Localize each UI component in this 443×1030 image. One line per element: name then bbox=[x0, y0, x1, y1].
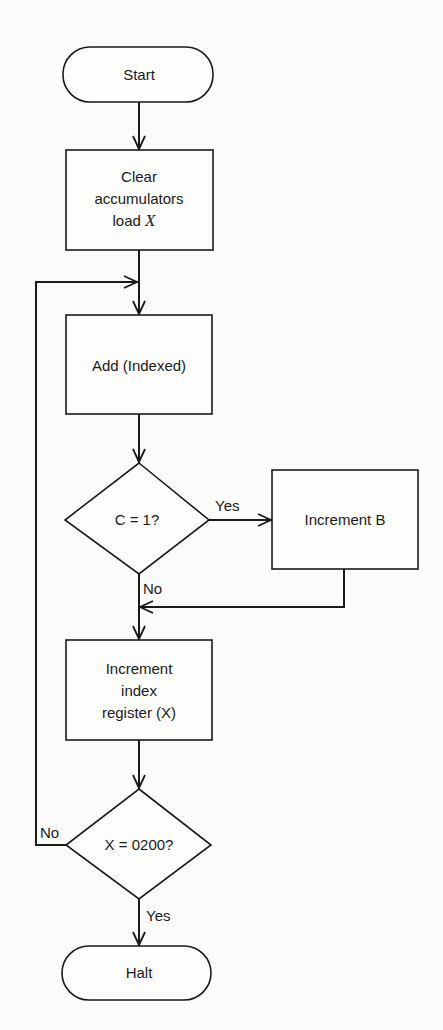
edge-label-x-yes: Yes bbox=[146, 907, 170, 924]
node-inc-x: Increment index register (X) bbox=[66, 640, 212, 740]
edge-label-x-no: No bbox=[40, 824, 59, 841]
node-add-label: Add (Indexed) bbox=[92, 357, 186, 374]
node-start-label: Start bbox=[123, 66, 156, 83]
node-decision-c: C = 1? bbox=[65, 463, 209, 574]
node-halt: Halt bbox=[62, 946, 211, 1000]
node-start: Start bbox=[63, 47, 213, 102]
flowchart: Start Clear accumulators load X Add (Ind… bbox=[0, 0, 443, 1030]
node-clear: Clear accumulators load X bbox=[66, 150, 213, 250]
node-clear-line1: Clear bbox=[121, 168, 157, 185]
node-clear-line3: load X bbox=[113, 211, 157, 230]
edge-label-c-yes: Yes bbox=[215, 497, 239, 514]
node-add: Add (Indexed) bbox=[66, 315, 212, 414]
edge-label-c-no: No bbox=[143, 580, 162, 597]
node-inc-b: Increment B bbox=[272, 470, 418, 569]
node-inc-x-line3: register (X) bbox=[102, 704, 176, 721]
node-decision-x: X = 0200? bbox=[66, 789, 211, 899]
node-halt-label: Halt bbox=[126, 964, 154, 981]
node-inc-x-line1: Increment bbox=[106, 660, 174, 677]
node-decision-x-label: X = 0200? bbox=[105, 836, 174, 853]
node-inc-x-line2: index bbox=[121, 682, 157, 699]
node-clear-line2: accumulators bbox=[94, 190, 183, 207]
node-clear-var: X bbox=[144, 211, 156, 230]
node-decision-c-label: C = 1? bbox=[115, 511, 160, 528]
edge-inc-b-merge bbox=[139, 569, 344, 607]
node-inc-b-label: Increment B bbox=[305, 511, 386, 528]
node-clear-line3-text: load bbox=[113, 212, 146, 229]
